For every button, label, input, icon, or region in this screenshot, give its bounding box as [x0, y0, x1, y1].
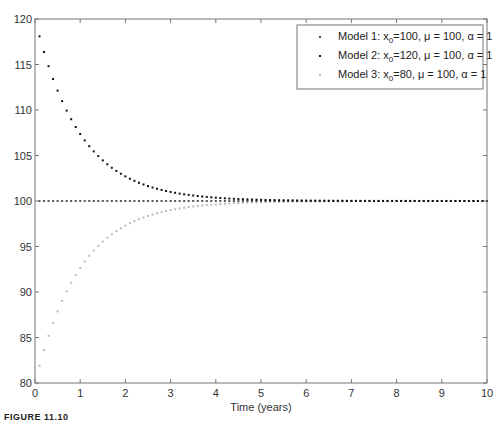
chart: 012345678910 80859095100105110115120 Tim…: [0, 0, 504, 426]
x-tick-label: 8: [394, 387, 400, 399]
y-tick-label: 110: [14, 104, 32, 116]
y-tick-label: 105: [14, 150, 32, 162]
y-tick-label: 90: [20, 286, 32, 298]
series-3: [39, 200, 488, 367]
x-tick-label: 3: [168, 387, 174, 399]
x-tick-label: 2: [122, 387, 128, 399]
legend-marker: [319, 74, 321, 76]
figure-caption: FIGURE 11.10: [4, 412, 77, 422]
x-tick-label: 5: [258, 387, 264, 399]
y-tick-label: 120: [14, 13, 32, 25]
legend-marker: [319, 36, 321, 38]
x-tick-label: 9: [439, 387, 445, 399]
legend-marker: [319, 55, 321, 57]
x-axis-label: Time (years): [230, 401, 291, 413]
y-tick-label: 115: [14, 59, 32, 71]
legend: Model 1: x0=100, μ = 100, α = 1Model 2: …: [297, 25, 492, 89]
x-tick-label: 6: [303, 387, 309, 399]
y-tick-label: 80: [20, 377, 32, 389]
x-tick-label: 0: [32, 387, 38, 399]
x-tick-label: 7: [348, 387, 354, 399]
x-tick-label: 4: [213, 387, 219, 399]
caption-prefix: FIGURE 11.10: [4, 412, 69, 422]
y-tick-label: 85: [20, 332, 32, 344]
x-tick-label: 10: [481, 387, 493, 399]
y-tick-label: 95: [20, 241, 32, 253]
x-tick-label: 1: [77, 387, 83, 399]
y-tick-label: 100: [14, 195, 32, 207]
series-1: [39, 200, 488, 202]
